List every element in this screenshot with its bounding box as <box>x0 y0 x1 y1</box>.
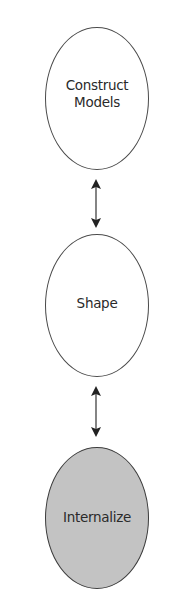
node-internalize: Internalize <box>45 447 149 589</box>
node-label: Shape <box>77 295 118 312</box>
bidirectional-arrow-icon <box>86 178 106 229</box>
node-label: Internalize <box>63 509 131 526</box>
node-shape: Shape <box>45 234 149 377</box>
node-construct-models: Construct Models <box>45 27 149 170</box>
process-diagram: Construct Models Shape Internalize <box>0 0 171 609</box>
bidirectional-arrow-icon <box>86 385 106 438</box>
node-label: Construct Models <box>66 77 129 111</box>
